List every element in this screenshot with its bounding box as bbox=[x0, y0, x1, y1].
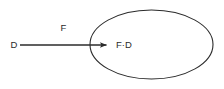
node-label: F·D bbox=[116, 39, 132, 50]
ellipse-node bbox=[90, 10, 213, 79]
edge-label: F bbox=[61, 22, 67, 33]
diagram-canvas: D F F·D bbox=[0, 0, 224, 89]
source-label: D bbox=[11, 39, 18, 50]
diagram-svg: D F F·D bbox=[0, 0, 224, 89]
